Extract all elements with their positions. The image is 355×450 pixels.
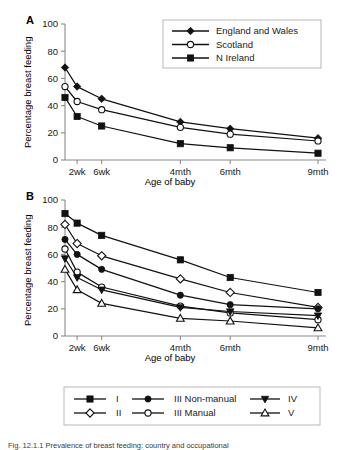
- series-line-6: [65, 269, 318, 327]
- panel-b-plot: 0204060801002wk6wk4mth6mth9mth: [0, 190, 355, 365]
- filled-circle-icon: [145, 396, 151, 402]
- y-tick-label: 100: [42, 18, 58, 29]
- filled-square-icon: [87, 396, 93, 402]
- data-point-s2-3: [176, 275, 184, 283]
- x-tick-label: 4mth: [170, 342, 191, 353]
- data-point-s4-0: [62, 246, 68, 252]
- data-point-s3-2: [99, 266, 105, 272]
- data-point-s2-2: [98, 252, 106, 260]
- data-point-s1-2: [98, 95, 105, 102]
- data-point-s5-0: [61, 256, 68, 263]
- x-tick-label: 2wk: [69, 166, 86, 177]
- x-tick-label: 6mth: [220, 166, 241, 177]
- open-circle-icon: [187, 41, 193, 47]
- data-point-s2-3: [177, 124, 183, 130]
- panel-a-plot: 0204060801002wk6wk4mth6mth9mthEngland an…: [0, 0, 355, 190]
- data-point-s3-3: [177, 141, 183, 147]
- legend-b-label-5: IV: [288, 393, 298, 404]
- open-circle-icon: [145, 410, 151, 416]
- data-point-s1-3: [177, 257, 183, 263]
- legend-b-label-3: III Non-manual: [174, 393, 236, 404]
- data-point-s2-0: [62, 83, 68, 89]
- data-point-s2-4: [226, 288, 234, 296]
- y-tick-label: 20: [47, 303, 58, 314]
- data-point-s3-1: [74, 251, 80, 257]
- data-point-s3-3: [177, 292, 183, 298]
- data-point-s3-0: [62, 236, 68, 242]
- data-point-s2-5: [315, 138, 321, 144]
- x-tick-label: 9mth: [307, 166, 328, 177]
- panel-a: A Percentage breast feeding Age of baby …: [0, 0, 355, 190]
- x-tick-label: 6mth: [220, 342, 241, 353]
- data-point-s1-4: [227, 274, 233, 280]
- y-tick-label: 60: [47, 249, 58, 260]
- legend-b-label-1: I: [116, 393, 119, 404]
- data-point-s1-1: [73, 83, 80, 90]
- y-tick-label: 80: [47, 222, 58, 233]
- legend-b-label-2: II: [116, 407, 121, 418]
- y-tick-label: 40: [47, 100, 58, 111]
- data-point-s2-4: [227, 131, 233, 137]
- data-point-s3-0: [62, 94, 68, 100]
- data-point-s1-2: [99, 232, 105, 238]
- data-point-s1-1: [74, 220, 80, 226]
- data-point-s2-2: [99, 107, 105, 113]
- data-point-s2-1: [74, 98, 80, 104]
- series-line-2: [65, 87, 318, 141]
- data-point-s6-2: [98, 299, 106, 306]
- x-tick-label: 6wk: [93, 166, 110, 177]
- legend-a-label-2: Scotland: [216, 39, 253, 50]
- data-point-s6-1: [73, 286, 81, 293]
- panel-b: B Percentage breast feeding Age of baby …: [0, 190, 355, 365]
- y-tick-label: 60: [47, 73, 58, 84]
- data-point-s6-0: [61, 265, 69, 272]
- y-tick-label: 40: [47, 276, 58, 287]
- data-point-s1-0: [61, 64, 68, 71]
- y-tick-label: 0: [53, 154, 58, 165]
- y-tick-label: 20: [47, 127, 58, 138]
- series-line-3: [65, 239, 318, 308]
- data-point-s1-0: [62, 211, 68, 217]
- data-point-s3-4: [227, 145, 233, 151]
- x-tick-label: 4mth: [170, 166, 191, 177]
- legend-a-label-3: N Ireland: [216, 52, 255, 63]
- x-tick-label: 9mth: [307, 342, 328, 353]
- legend-a-label-1: England and Wales: [216, 25, 298, 36]
- data-point-s3-1: [74, 113, 80, 119]
- y-tick-label: 0: [53, 330, 58, 341]
- data-point-s3-2: [99, 123, 105, 129]
- legend-b-label-4: III Manual: [174, 407, 216, 418]
- filled-square-icon: [187, 55, 193, 61]
- data-point-s3-4: [227, 302, 233, 308]
- legend-b-label-6: V: [288, 407, 295, 418]
- y-tick-label: 100: [42, 194, 58, 205]
- y-tick-label: 80: [47, 46, 58, 57]
- data-point-s3-5: [315, 306, 321, 312]
- x-tick-label: 6wk: [93, 342, 110, 353]
- panel-b-legend: IIIIII Non-manualIII ManualIVV: [0, 383, 355, 429]
- x-tick-label: 2wk: [69, 342, 86, 353]
- data-point-s3-5: [315, 150, 321, 156]
- data-point-s1-5: [315, 289, 321, 295]
- data-point-s2-1: [73, 239, 81, 247]
- figure-caption: Fig. 12.1.1 Prevalence of breast feeding…: [8, 441, 348, 450]
